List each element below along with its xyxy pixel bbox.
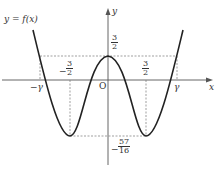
function-label: y = f(x) bbox=[4, 15, 38, 24]
x-tick-gamma: γ bbox=[174, 83, 179, 92]
y-tick-neg-57-16: 57 16 bbox=[118, 138, 130, 155]
x-tick-three-halves: 3 2 bbox=[142, 60, 149, 77]
x-axis-label: x bbox=[209, 83, 214, 92]
x-tick-neg-gamma: −γ bbox=[30, 83, 43, 92]
y-tick-three-halves: 3 2 bbox=[111, 34, 118, 51]
y-axis-arrow-icon bbox=[106, 8, 111, 15]
origin-label: O bbox=[99, 82, 106, 91]
y-axis-label: y bbox=[112, 7, 117, 16]
x-tick-neg-three-halves: 3 2 bbox=[66, 60, 73, 77]
